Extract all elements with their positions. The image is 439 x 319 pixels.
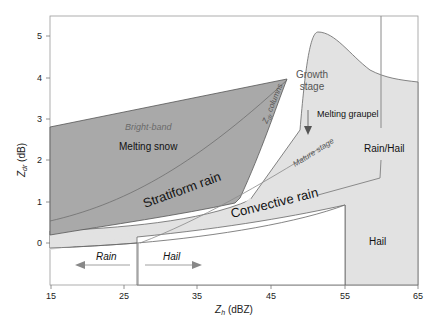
- label-melting-snow: Melting snow: [119, 141, 178, 152]
- y-axis-title: Zdr (dB): [16, 143, 28, 178]
- y-tick-4: 4: [37, 73, 42, 83]
- x-tick-55: 55: [340, 291, 350, 301]
- label-rain-hail: Rain/Hail: [364, 143, 405, 154]
- label-growth-stage-1: Growth: [296, 69, 328, 80]
- label-growth-stage-2: stage: [300, 81, 325, 92]
- x-tick-25: 25: [119, 291, 129, 301]
- x-tick-35: 35: [192, 291, 202, 301]
- label-rain-arrow: Rain: [96, 251, 117, 262]
- label-hail-arrow: Hail: [163, 251, 181, 262]
- y-tick-5: 5: [37, 31, 42, 41]
- x-tick-65: 65: [413, 291, 423, 301]
- label-bright-band: Bright-band: [125, 122, 173, 132]
- y-tick-2: 2: [37, 155, 42, 165]
- y-tick-1: 1: [37, 197, 42, 207]
- y-tick-0: 0: [37, 238, 42, 248]
- x-axis-title: Zh (dBZ): [214, 304, 253, 316]
- label-melting-graupel: Melting graupel: [317, 109, 379, 119]
- label-hail-region: Hail: [369, 236, 386, 247]
- x-axis: [51, 285, 418, 289]
- y-axis: [46, 36, 50, 243]
- zdr-zh-diagram: 0 1 2 3 4 5 15 25 35 45 55 65 Zh (dBZ) Z…: [0, 0, 439, 319]
- x-tick-15: 15: [46, 291, 56, 301]
- y-tick-3: 3: [37, 114, 42, 124]
- x-tick-45: 45: [266, 291, 276, 301]
